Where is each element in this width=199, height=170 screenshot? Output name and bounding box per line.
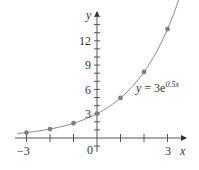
equation-body: = 3e: [141, 81, 165, 95]
x-tick-label-neg3: −3: [17, 144, 30, 158]
y-tick-label-6: 6: [85, 83, 91, 97]
data-point: [95, 111, 100, 116]
data-point: [71, 121, 76, 126]
y-tick-label-12: 12: [79, 34, 91, 48]
origin-label: 0: [87, 143, 93, 157]
x-tick-label-3: 3: [165, 144, 171, 158]
y-axis-label: y: [85, 8, 92, 22]
data-point: [118, 96, 123, 101]
equation-exponent: 0.5x: [165, 80, 179, 89]
y-tick-label-3: 3: [85, 107, 91, 121]
data-point: [48, 127, 53, 132]
data-point: [165, 27, 170, 32]
x-axis-label: x: [179, 144, 186, 158]
equation-annotation: y = 3e0.5x: [135, 80, 179, 95]
data-point: [142, 70, 147, 75]
exponential-chart: y x 0 −3 3 3 6 9 12 y = 3e0.5x: [0, 0, 199, 170]
data-point: [24, 130, 29, 135]
y-tick-label-9: 9: [85, 58, 91, 72]
